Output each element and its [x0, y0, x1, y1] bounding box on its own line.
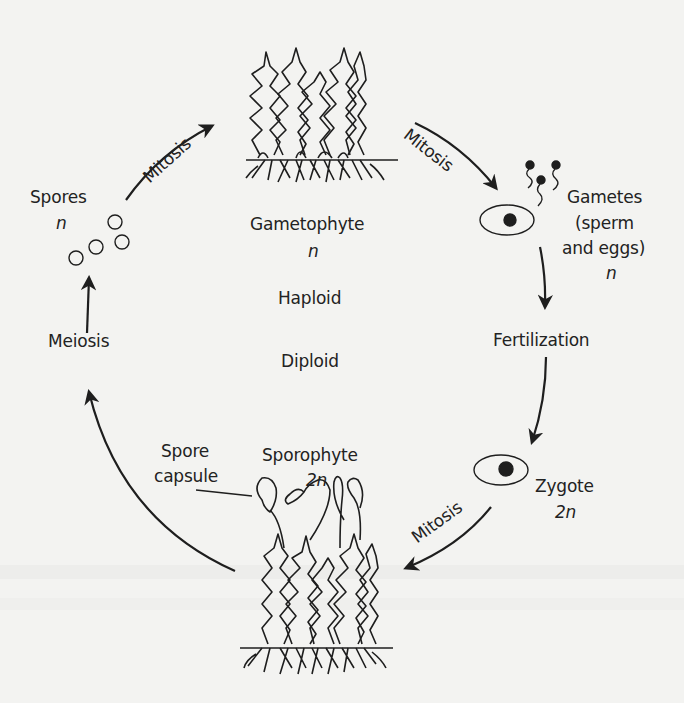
haploid-label: Haploid: [278, 288, 341, 308]
sporophyte-ploidy: 2n: [306, 470, 327, 490]
spores-ploidy: n: [56, 213, 67, 233]
diploid-label: Diploid: [281, 351, 339, 371]
gametophyte-label: Gametophyte: [250, 214, 364, 234]
arrow-fertilization-to-zygote: [532, 357, 546, 442]
gametes-ploidy: n: [606, 263, 617, 283]
diagram-graphics: [0, 0, 684, 703]
gametophyte-plant-icon: [246, 48, 398, 182]
spore-capsule-label-line2: capsule: [154, 466, 218, 486]
zygote-ploidy: 2n: [555, 502, 576, 522]
spores-label: Spores: [30, 187, 87, 207]
zygote-label: Zygote: [535, 476, 594, 496]
gametes-sublabel-eggs: and eggs): [562, 238, 645, 258]
spore-capsule-label-line1: Spore: [161, 441, 209, 461]
moss-life-cycle-diagram: Spores n Mitosis Mitosis Gametophyte n H…: [0, 0, 684, 703]
gametophyte-ploidy: n: [308, 241, 319, 261]
sporophyte-label: Sporophyte: [262, 445, 358, 465]
gametes-sublabel-sperm: (sperm: [575, 213, 634, 233]
arrow-gametes-to-fertilization: [540, 247, 545, 307]
arrow-meiosis-to-spores: [87, 278, 89, 333]
fertilization-label: Fertilization: [493, 330, 589, 350]
gametes-label: Gametes: [567, 187, 642, 207]
gametes-icon: [480, 161, 560, 235]
cycle-arrows: [87, 123, 546, 571]
spores-icon: [69, 215, 129, 265]
meiosis-label: Meiosis: [48, 331, 109, 351]
zygote-icon: [474, 455, 528, 485]
